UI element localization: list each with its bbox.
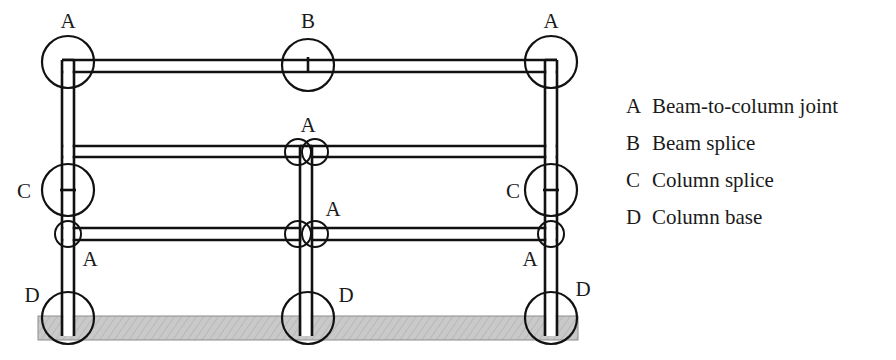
- marker-b-beam-splice: [282, 39, 334, 91]
- legend-desc-c: Column splice: [648, 162, 774, 199]
- marker-a-top-left-label: A: [60, 9, 76, 33]
- list-item: C Column splice: [626, 162, 894, 199]
- legend-desc-b: Beam splice: [648, 125, 755, 162]
- list-item: B Beam splice: [626, 125, 894, 162]
- legend-key-b: B: [626, 125, 648, 162]
- legend-key-a: A: [626, 88, 648, 125]
- marker-a-lower-right-label: A: [522, 247, 538, 271]
- legend-key-c: C: [626, 162, 648, 199]
- marker-a-mid-upper-right-label: A: [300, 113, 316, 137]
- legend-key-d: D: [626, 199, 648, 236]
- list-item: A Beam-to-column joint: [626, 88, 894, 125]
- marker-a-mid-lower-right-label: A: [325, 197, 341, 221]
- legend-desc-a: Beam-to-column joint: [648, 88, 838, 125]
- marker-a-top-right-label: A: [543, 9, 559, 33]
- steel-frame-elevation-figure: ABACCDDDAAAA: [0, 0, 620, 360]
- marker-a-lower-left-label: A: [82, 247, 98, 271]
- marker-d-base-right-label: D: [575, 277, 590, 301]
- roof-beam: [62, 60, 557, 72]
- list-item: D Column base: [626, 199, 894, 236]
- legend: A Beam-to-column joint B Beam splice C C…: [626, 88, 894, 236]
- right-column: [545, 60, 557, 336]
- legend-desc-d: Column base: [648, 199, 762, 236]
- frame-svg-canvas: ABACCDDDAAAA: [0, 0, 620, 360]
- left-column: [62, 60, 74, 336]
- marker-d-base-middle-label: D: [338, 283, 353, 307]
- column-layer: [62, 60, 557, 336]
- middle-column: [300, 146, 312, 336]
- marker-c-splice-left-label: C: [17, 179, 31, 203]
- marker-b-beam-splice-label: B: [301, 9, 315, 33]
- marker-c-splice-right-label: C: [506, 179, 520, 203]
- marker-d-base-left-label: D: [24, 283, 39, 307]
- diagram-root: ABACCDDDAAAA A Beam-to-column joint B Be…: [0, 0, 896, 360]
